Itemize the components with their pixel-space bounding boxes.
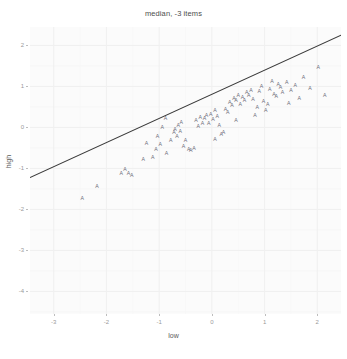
x-tick-mark (265, 314, 266, 316)
y-tick-label: 2 (8, 42, 24, 48)
data-point: A (169, 137, 173, 143)
data-point: A (323, 92, 327, 98)
x-tick-mark (159, 314, 160, 316)
y-tick-label: -3 (8, 247, 24, 253)
data-point: A (264, 107, 268, 113)
x-tick-label: 2 (306, 319, 328, 325)
x-tick-mark (54, 314, 55, 316)
data-point: A (293, 82, 297, 88)
data-point: A (151, 154, 155, 160)
data-point: A (285, 79, 289, 85)
data-point: A (287, 100, 291, 106)
data-point: A (119, 170, 123, 176)
data-point: A (234, 117, 238, 123)
data-point: A (180, 119, 184, 125)
x-tick-mark (212, 314, 213, 316)
data-point: A (255, 104, 259, 110)
data-point: A (222, 129, 226, 135)
grid-minor-group (30, 27, 341, 314)
y-tick-label: 0 (8, 124, 24, 130)
data-point: A (308, 85, 312, 91)
y-tick-mark (26, 127, 28, 128)
chart-root: median, -3 items AAAAAAAAAAAAAAAAAAAAAAA… (0, 0, 347, 359)
y-axis-title: high (5, 142, 12, 182)
data-point: A (192, 145, 196, 151)
data-point: A (80, 195, 84, 201)
data-point: A (158, 141, 162, 147)
data-points-group: AAAAAAAAAAAAAAAAAAAAAAAAAAAAAAAAAAAAAAAA… (80, 64, 326, 201)
data-point: A (215, 113, 219, 119)
data-point: A (249, 87, 253, 93)
data-point: A (164, 115, 168, 121)
y-tick-mark (26, 291, 28, 292)
y-tick-mark (26, 209, 28, 210)
chart-title: median, -3 items (0, 9, 347, 18)
data-point: A (142, 156, 146, 162)
data-point: A (281, 89, 285, 95)
x-axis-title: low (0, 332, 347, 339)
plot-panel: AAAAAAAAAAAAAAAAAAAAAAAAAAAAAAAAAAAAAAAA… (30, 27, 341, 314)
x-tick-label: 0 (201, 319, 223, 325)
x-tick-mark (106, 314, 107, 316)
data-point: A (218, 122, 222, 128)
x-tick-mark (317, 314, 318, 316)
x-tick-label: -2 (95, 319, 117, 325)
data-point: A (165, 150, 169, 156)
data-point: A (274, 93, 278, 99)
data-point: A (213, 136, 217, 142)
x-tick-label: -3 (43, 319, 65, 325)
data-point: A (184, 137, 188, 143)
data-point: A (266, 101, 270, 107)
x-tick-label: -1 (148, 319, 170, 325)
data-point: A (145, 140, 149, 146)
y-tick-mark (26, 86, 28, 87)
data-point: A (302, 74, 306, 80)
y-tick-mark (26, 168, 28, 169)
data-point: A (175, 133, 179, 139)
data-point: A (253, 112, 257, 118)
data-point: A (95, 183, 99, 189)
data-point: A (226, 109, 230, 115)
data-point: A (260, 83, 264, 89)
y-tick-label: -4 (8, 288, 24, 294)
data-point: A (156, 133, 160, 139)
y-tick-label: 1 (8, 83, 24, 89)
data-point: A (270, 78, 274, 84)
y-tick-label: -2 (8, 206, 24, 212)
data-point: A (251, 96, 255, 102)
footer-artifact-strip (0, 347, 347, 359)
scatter-plot-svg: AAAAAAAAAAAAAAAAAAAAAAAAAAAAAAAAAAAAAAAA… (30, 27, 341, 314)
data-point: A (258, 88, 262, 94)
x-tick-label: 1 (254, 319, 276, 325)
data-point: A (130, 172, 134, 178)
y-tick-mark (26, 250, 28, 251)
data-point: A (178, 128, 182, 134)
data-point: A (182, 143, 186, 149)
data-point: A (161, 124, 165, 130)
data-point: A (317, 64, 321, 70)
y-tick-mark (26, 45, 28, 46)
data-point: A (298, 95, 302, 101)
